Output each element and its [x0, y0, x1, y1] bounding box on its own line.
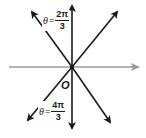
- numerator: 4π: [51, 101, 65, 112]
- fraction: 2π 3: [55, 10, 69, 31]
- origin-point: [70, 65, 74, 69]
- polar-lines-diagram: [0, 0, 146, 138]
- equals-sign: =: [49, 16, 54, 25]
- label-theta-2pi-3: θ = 2π 3: [42, 10, 70, 31]
- line-5pi-3: [72, 67, 110, 122]
- origin-label: O: [61, 80, 70, 91]
- denominator: 3: [60, 21, 65, 31]
- numerator: 2π: [55, 10, 69, 21]
- equals-sign: =: [45, 107, 50, 116]
- theta-symbol: θ: [39, 107, 44, 117]
- fraction: 4π 3: [51, 101, 65, 122]
- line-pi-3: [72, 12, 117, 67]
- denominator: 3: [56, 112, 61, 122]
- theta-symbol: θ: [43, 16, 48, 26]
- label-theta-4pi-3: θ = 4π 3: [38, 101, 66, 122]
